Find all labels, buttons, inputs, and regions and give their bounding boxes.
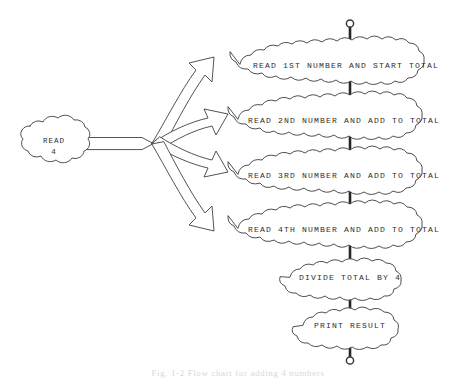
end-terminator-icon [346,357,353,364]
fan-stem [80,138,152,150]
node-step-6: PRINT RESULT [292,307,398,350]
node-label-step-6: PRINT RESULT [314,321,386,330]
node-step-2: READ 2ND NUMBER AND ADD TO TOTAL [228,91,440,140]
node-label-read-4-line1: READ [43,137,65,145]
node-step-5: DIVIDE TOTAL BY 4 [280,258,402,301]
node-step-3: READ 3RD NUMBER AND ADD TO TOTAL [228,146,440,195]
figure-caption: Fig. 1-2 Flow chart for adding 4 numbers [0,368,476,381]
node-step-1: READ 1ST NUMBER AND START TOTAL [230,36,439,85]
node-label-step-2: READ 2ND NUMBER AND ADD TO TOTAL [248,116,440,125]
fan-out-connector [80,57,228,231]
node-step-4: READ 4TH NUMBER AND ADD TO TOTAL [228,200,440,249]
node-label-read-4-line2: 4 [51,148,56,156]
node-label-step-5: DIVIDE TOTAL BY 4 [299,273,401,282]
node-label-step-4: READ 4TH NUMBER AND ADD TO TOTAL [248,225,440,234]
node-label-step-1: READ 1ST NUMBER AND START TOTAL [253,61,439,70]
node-read-4: READ 4 [21,115,90,162]
start-terminator-icon [346,20,353,27]
flowchart-canvas: READ 4 READ 1ST NUMBER AND START TOTAL R… [0,0,476,381]
flowchart-diagram: READ 4 READ 1ST NUMBER AND START TOTAL R… [0,0,476,381]
node-label-step-3: READ 3RD NUMBER AND ADD TO TOTAL [248,171,440,180]
